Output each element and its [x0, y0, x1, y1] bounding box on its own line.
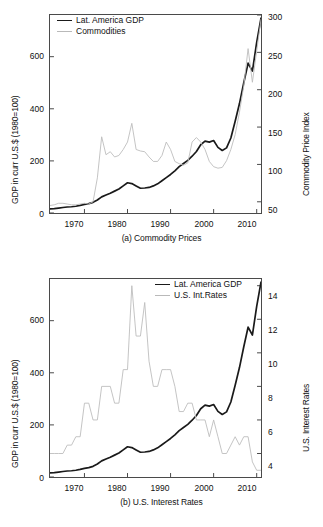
y2-tick-b-10: 10	[268, 359, 298, 369]
legend-item-us-int-rates: U.S. Int.Rates	[155, 290, 242, 301]
legend-label-us-int-rates: U.S. Int.Rates	[174, 290, 227, 301]
y2-tick-a-150: 150	[268, 128, 298, 138]
x-tick-a-2010: 2010	[229, 219, 265, 229]
y2-tick-b-14: 14	[268, 291, 298, 301]
chart-panel-us-interest-rates: 0 200 400 600 4 6 8 10 12 14 1970 1980 1…	[0, 264, 323, 527]
y-tick-a-600: 600	[8, 51, 44, 61]
y2-tick-a-100: 100	[268, 166, 298, 176]
plot-area-us-interest-rates	[49, 278, 262, 478]
legend-line-swatch-dark-icon	[155, 284, 170, 285]
x-tick-b-1970: 1970	[56, 483, 92, 493]
x-tick-b-1990: 1990	[142, 483, 178, 493]
legend-line-swatch-dark-icon	[57, 20, 72, 21]
legend-commodity-prices: Lat. America GDP Commodities	[57, 15, 144, 37]
y2-tick-b-4: 4	[268, 461, 298, 471]
x-tick-a-1970: 1970	[56, 219, 92, 229]
y-tick-b-600: 600	[8, 315, 44, 325]
plot-area-commodity-prices	[49, 14, 262, 214]
y-axis-title-a: GDP in curr U.S.$ (1980=100)	[10, 96, 20, 204]
x-tick-b-2010: 2010	[229, 483, 265, 493]
figure-root: 0 200 400 600 50 100 150 200 250 300 197…	[0, 0, 323, 527]
y2-tick-b-12: 12	[268, 325, 298, 335]
y-axis-title-b: GDP in curr U.S.$ (1980=100)	[10, 360, 20, 468]
y2-tick-a-50: 50	[268, 205, 298, 215]
series-line-lat-america-gdp	[50, 18, 261, 209]
series-line-commodities	[50, 19, 261, 205]
x-tick-b-2000: 2000	[186, 483, 222, 493]
legend-item-lat-america-gdp: Lat. America GDP	[57, 15, 144, 26]
y2-tick-a-250: 250	[268, 51, 298, 61]
legend-item-lat-america-gdp-b: Lat. America GDP	[155, 279, 242, 290]
caption-us-interest-rates: (b) U.S. Interest Rates	[0, 497, 323, 507]
legend-label-lat-america-gdp-b: Lat. America GDP	[174, 279, 242, 290]
legend-us-interest-rates: Lat. America GDP U.S. Int.Rates	[155, 279, 242, 301]
y2-axis-title-b: U.S. Interest Rates	[301, 384, 311, 452]
x-tick-a-2000: 2000	[186, 219, 222, 229]
x-tick-a-1980: 1980	[99, 219, 135, 229]
legend-label-commodities: Commodities	[76, 26, 126, 37]
y2-tick-b-8: 8	[268, 393, 298, 403]
y2-tick-a-300: 300	[268, 12, 298, 22]
series-line-lat-america-gdp	[50, 282, 261, 473]
series-line-u-s-int-rates	[50, 286, 261, 471]
y-tick-b-0: 0	[8, 473, 44, 483]
y2-tick-a-200: 200	[268, 89, 298, 99]
caption-commodity-prices: (a) Commodity Prices	[0, 233, 323, 243]
series-canvas-commodity-prices	[50, 15, 261, 213]
x-tick-b-1980: 1980	[99, 483, 135, 493]
legend-line-swatch-light-icon	[155, 295, 170, 296]
legend-item-commodities: Commodities	[57, 26, 144, 37]
y2-tick-b-6: 6	[268, 427, 298, 437]
y-tick-a-0: 0	[8, 209, 44, 219]
legend-line-swatch-light-icon	[57, 31, 72, 32]
x-tick-a-1990: 1990	[142, 219, 178, 229]
series-canvas-us-interest-rates	[50, 279, 261, 477]
y2-axis-title-a: Commodity Price Index	[301, 112, 311, 196]
legend-label-lat-america-gdp: Lat. America GDP	[76, 15, 144, 26]
chart-panel-commodity-prices: 0 200 400 600 50 100 150 200 250 300 197…	[0, 0, 323, 263]
